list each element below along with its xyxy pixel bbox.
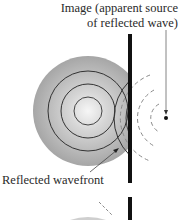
reflecting-barrier-lower — [128, 197, 132, 220]
image-label-line1: Image (apparent source — [61, 1, 178, 16]
lower-dashed-segment — [99, 202, 112, 215]
dashed-arc-2 — [137, 90, 154, 146]
reflecting-barrier — [128, 34, 132, 183]
image-point — [164, 116, 168, 120]
reflected-wavefront-arc-2 — [126, 78, 183, 158]
reflected-wavefront-label: Reflected wavefront — [2, 173, 104, 188]
image-label: Image (apparent source of reflected wave… — [61, 1, 178, 31]
image-label-line2: of reflected wave) — [61, 16, 178, 31]
image-arrow-head — [164, 110, 168, 115]
dashed-arc-3 — [151, 104, 159, 132]
incident-wave — [33, 56, 183, 170]
lower-wave-top — [70, 217, 106, 220]
